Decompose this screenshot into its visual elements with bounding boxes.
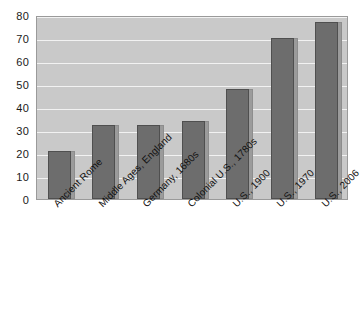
y-axis-tick-label: 10 [16,172,29,183]
y-axis-tick-label: 20 [16,149,29,160]
bar-body [271,38,294,199]
y-axis-tick-label: 30 [16,126,29,137]
y-axis-tick-label: 60 [16,57,29,68]
y-axis-tick-label: 70 [16,34,29,45]
bar [271,38,294,199]
y-axis-tick-label: 80 [16,11,29,22]
y-axis-tick-label: 50 [16,80,29,91]
bar [315,22,338,199]
y-axis-tick-label: 40 [16,103,29,114]
bar-body [315,22,338,199]
y-axis-tick-label: 0 [23,195,29,206]
x-axis: Ancient RomeMiddle Ages, EnglandGermany,… [36,202,348,309]
y-axis: 01020304050607080 [0,16,33,200]
